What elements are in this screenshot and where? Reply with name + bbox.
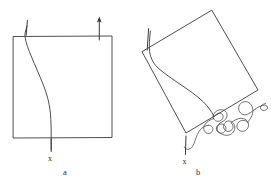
panel-b-curve xyxy=(149,31,214,116)
panel-a-top-tick-icon xyxy=(26,21,27,36)
panel-b: x b xyxy=(142,11,267,178)
panel-a-caption: a xyxy=(63,167,67,177)
panel-b-point-label: x xyxy=(182,157,186,166)
panel-b-top-tick-icon xyxy=(147,29,148,50)
panel-a-point-label: x xyxy=(48,154,52,163)
figure-canvas: x a x xyxy=(0,0,271,184)
panel-b-caption: b xyxy=(196,167,200,177)
panel-a: x a xyxy=(14,17,113,178)
panel-b-bottom-tick-icon xyxy=(185,136,186,155)
panel-a-curve xyxy=(25,26,51,150)
panel-a-square xyxy=(14,36,113,138)
figure-root: x a x xyxy=(0,0,271,184)
panel-b-square xyxy=(142,11,258,134)
